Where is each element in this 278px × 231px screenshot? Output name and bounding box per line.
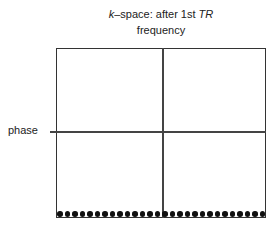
phase-axis-label: phase xyxy=(8,124,38,136)
k-space-sample-dot xyxy=(57,211,63,217)
frequency-center-line xyxy=(162,48,164,218)
k-space-sample-dot xyxy=(162,211,168,217)
k-space-sample-dot xyxy=(147,211,153,217)
k-space-sample-dot xyxy=(200,211,206,217)
k-space-sample-dot xyxy=(72,211,78,217)
k-space-sample-dot xyxy=(245,211,251,217)
k-space-sample-dot xyxy=(132,211,138,217)
k-space-sample-dot xyxy=(222,211,228,217)
k-space-sample-dot xyxy=(207,211,213,217)
k-space-sample-dot xyxy=(177,211,183,217)
k-space-sample-dot xyxy=(237,211,243,217)
k-space-sample-dot xyxy=(95,211,101,217)
k-space-sample-dot xyxy=(140,211,146,217)
k-space-sample-dot xyxy=(117,211,123,217)
k-space-sample-dot xyxy=(110,211,116,217)
acquired-k-space-row xyxy=(57,211,265,217)
title-tr: TR xyxy=(199,8,214,20)
k-space-sample-dot xyxy=(87,211,93,217)
k-space-sample-dot xyxy=(192,211,198,217)
k-space-sample-dot xyxy=(102,211,108,217)
k-space-sample-dot xyxy=(80,211,86,217)
k-space-sample-dot xyxy=(215,211,221,217)
k-space-sample-dot xyxy=(260,211,266,217)
k-space-sample-dot xyxy=(230,211,236,217)
phase-center-line xyxy=(56,131,266,133)
k-space-sample-dot xyxy=(252,211,258,217)
k-space-sample-dot xyxy=(170,211,176,217)
diagram-title: k–space: after 1st TR xyxy=(56,8,266,20)
k-space-sample-dot xyxy=(65,211,71,217)
title-middle: –space: after 1st xyxy=(114,8,198,20)
k-space-grid xyxy=(56,48,266,218)
frequency-axis-label: frequency xyxy=(56,24,266,36)
k-space-sample-dot xyxy=(185,211,191,217)
k-space-sample-dot xyxy=(125,211,131,217)
k-space-sample-dot xyxy=(155,211,161,217)
